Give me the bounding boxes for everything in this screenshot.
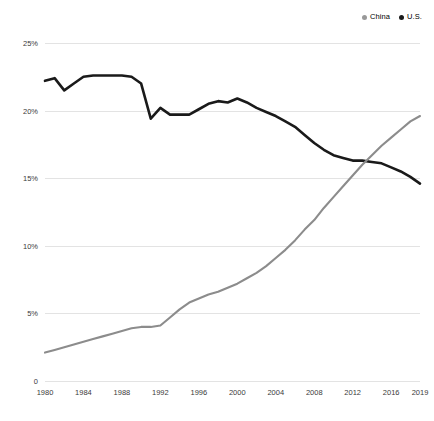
y-axis-tick-label: 10% [23, 241, 38, 250]
x-axis-tick-label: 1980 [37, 388, 54, 397]
x-axis-tick-label: 2004 [267, 388, 284, 397]
chart-legend: China U.S. [362, 11, 422, 23]
legend-dot-us-icon [399, 15, 404, 20]
legend-item-china: China [362, 13, 390, 21]
y-axis-tick-label: 25% [23, 39, 38, 48]
chart-container: China U.S. 05%10%15%20%25% 1980198419881… [0, 0, 434, 421]
y-axis: 05%10%15%20%25% [0, 43, 38, 381]
x-axis-tick-label: 2008 [306, 388, 323, 397]
legend-label-us: U.S. [407, 13, 422, 21]
legend-dot-china-icon [362, 15, 367, 20]
x-axis-tick-label: 1992 [152, 388, 169, 397]
series-line-china [45, 116, 420, 353]
y-axis-tick-label: 20% [23, 106, 38, 115]
plot-area [45, 43, 420, 381]
gridline [45, 381, 420, 382]
y-axis-tick-label: 15% [23, 174, 38, 183]
x-axis-tick-label: 1984 [75, 388, 92, 397]
x-axis: 1980198419881992199620002004200820122016… [45, 388, 420, 402]
legend-item-us: U.S. [399, 13, 422, 21]
y-axis-tick-label: 0 [34, 377, 38, 386]
x-axis-tick-label: 2000 [229, 388, 246, 397]
x-axis-tick-label: 1996 [191, 388, 208, 397]
series-layer [45, 43, 420, 381]
series-line-us [45, 75, 420, 183]
x-axis-tick-label: 1988 [114, 388, 131, 397]
x-axis-tick-label: 2016 [383, 388, 400, 397]
x-axis-tick-label: 2019 [412, 388, 429, 397]
y-axis-tick-label: 5% [27, 309, 38, 318]
legend-label-china: China [370, 13, 390, 21]
x-axis-tick-label: 2012 [344, 388, 361, 397]
